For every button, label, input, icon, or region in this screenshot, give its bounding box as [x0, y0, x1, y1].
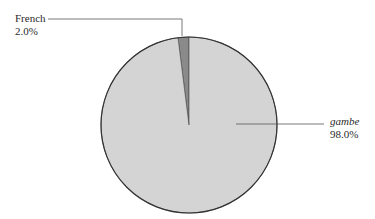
slice-label-gambe: gambe 98.0% — [330, 115, 359, 141]
slice-label-french: French 2.0% — [15, 12, 46, 38]
pie-slice-gambe — [101, 37, 277, 213]
pie-chart — [0, 0, 375, 219]
slice-name-gambe: gambe — [330, 115, 359, 128]
slice-percent-gambe: 98.0% — [330, 128, 359, 141]
pie-slices — [101, 37, 277, 213]
leader-line-french — [48, 19, 182, 36]
slice-name-french: French — [15, 12, 46, 25]
slice-percent-french: 2.0% — [15, 25, 46, 38]
